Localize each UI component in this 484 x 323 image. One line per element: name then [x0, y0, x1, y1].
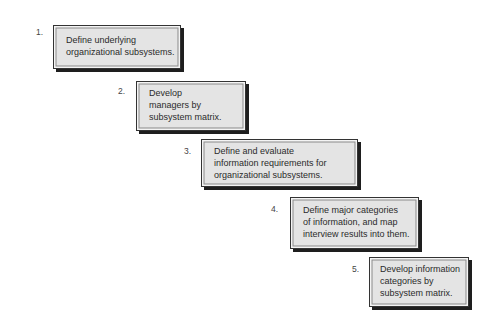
step-2-number: 2.: [118, 86, 125, 96]
step-2-text-line-1: Develop: [149, 87, 237, 99]
step-5-text-line-3: subsystem matrix.: [380, 287, 460, 299]
step-2-text-line-2: managers by: [149, 99, 237, 111]
step-2-text-line-3: subsystem matrix.: [149, 111, 237, 123]
step-1-text-line-2: organizational subsystems.: [66, 46, 172, 58]
step-4-text-line-3: interview results into them.: [303, 228, 410, 240]
step-5-text-line-1: Develop information: [380, 263, 460, 275]
step-4-text-line-1: Define major categories: [303, 204, 410, 216]
step-3-text-line-3: organizational subsystems.: [214, 169, 349, 181]
step-1-text-line-1: Define underlying: [66, 34, 172, 46]
step-5-text-line-2: categories by: [380, 275, 460, 287]
step-4-number: 4.: [271, 204, 278, 214]
step-2-box: Develop managers by subsystem matrix.: [136, 81, 246, 131]
step-3-number: 3.: [184, 146, 191, 156]
step-5-box: Develop information categories by subsys…: [369, 257, 469, 307]
step-3-text-line-2: information requirements for: [214, 157, 349, 169]
step-3-box: Define and evaluate information requirem…: [201, 139, 358, 187]
step-1-box: Define underlying organizational subsyst…: [53, 25, 181, 69]
step-3-text-line-1: Define and evaluate: [214, 145, 349, 157]
step-4-text-line-2: of information, and map: [303, 216, 410, 228]
step-4-box: Define major categories of information, …: [290, 197, 419, 249]
step-1-number: 1.: [36, 27, 43, 37]
step-5-number: 5.: [352, 264, 359, 274]
